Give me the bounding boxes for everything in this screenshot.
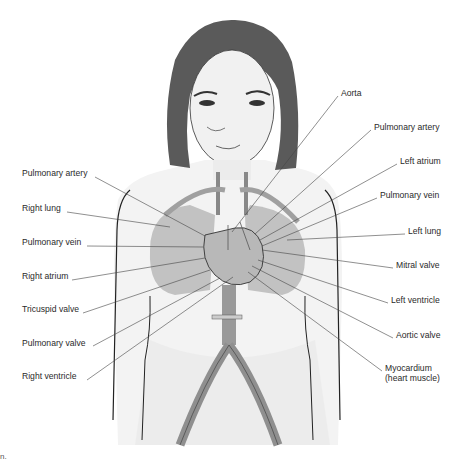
corner-caption-fragment: n. <box>0 452 7 461</box>
label-pulmonary-artery-right: Pulmonary artery <box>374 122 439 132</box>
label-left-ventricle: Left ventricle <box>391 295 440 305</box>
figure-illustration <box>0 0 469 469</box>
label-aortic-valve: Aortic valve <box>396 330 440 340</box>
label-aorta: Aorta <box>341 88 362 98</box>
label-right-lung: Right lung <box>22 203 61 213</box>
label-left-atrium: Left atrium <box>400 156 441 166</box>
label-tricuspid-valve: Tricuspid valve <box>22 304 79 314</box>
label-left-lung: Left lung <box>408 226 441 236</box>
label-pulmonary-artery-left: Pulmonary artery <box>22 168 87 178</box>
label-pulmonary-valve: Pulmonary valve <box>22 338 86 348</box>
label-pulmonary-vein-left: Pulmonary vein <box>22 237 81 247</box>
anatomy-diagram: Pulmonary artery Right lung Pulmonary ve… <box>0 0 469 469</box>
label-pulmonary-vein-right: Pulmonary vein <box>380 190 439 200</box>
label-myocardium: Myocardium (heart muscle) <box>385 363 440 383</box>
label-mitral-valve: Mitral valve <box>396 260 439 270</box>
label-right-atrium: Right atrium <box>22 271 68 281</box>
label-right-ventricle: Right ventricle <box>22 371 76 381</box>
